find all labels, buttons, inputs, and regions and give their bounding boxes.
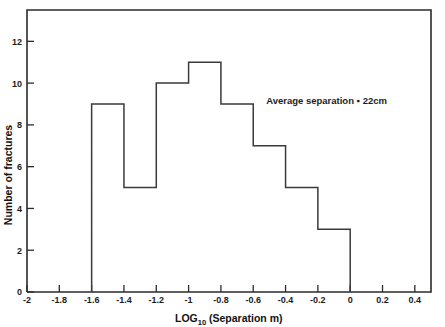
x-axis-title-main: LOG	[175, 312, 198, 324]
x-tick-label: -0.6	[245, 295, 261, 305]
histogram-figure: -2-1.8-1.6-1.4-1.2-1-0.8-0.6-0.4-0.200.2…	[0, 0, 445, 327]
x-tick-label: -0.4	[278, 295, 294, 305]
x-axis-title-rest: (Separation m)	[206, 312, 282, 324]
x-axis-title: LOG10 (Separation m)	[175, 312, 283, 327]
y-tick-label: 8	[17, 120, 22, 130]
average-separation-annotation: Average separation ▪ 22cm	[266, 95, 387, 106]
x-tick-label: -1.2	[149, 295, 165, 305]
y-tick-label: 2	[17, 246, 22, 256]
x-tick-label: 0.4	[409, 295, 422, 305]
x-tick-label: -1.6	[84, 295, 100, 305]
histogram-plot: -2-1.8-1.6-1.4-1.2-1-0.8-0.6-0.4-0.200.2…	[0, 0, 445, 327]
x-tick-label: -2	[23, 295, 31, 305]
plot-frame	[27, 10, 431, 292]
x-axis-title-subscript: 10	[198, 318, 206, 327]
x-tick-label: 0.2	[376, 295, 389, 305]
x-tick-label: -0.8	[213, 295, 229, 305]
y-tick-label: 12	[12, 37, 22, 47]
x-tick-label: 0	[348, 295, 353, 305]
y-tick-label: 4	[17, 204, 22, 214]
x-tick-label: -1.8	[52, 295, 68, 305]
y-tick-label: 10	[12, 79, 22, 89]
x-tick-label: -1.4	[116, 295, 132, 305]
x-tick-label: -0.2	[310, 295, 326, 305]
y-axis-ticks	[27, 41, 34, 292]
x-axis-ticks	[27, 285, 415, 292]
y-tick-label: 6	[17, 162, 22, 172]
y-axis-title: Number of fractures	[2, 125, 14, 226]
y-tick-label: 0	[17, 287, 22, 297]
x-tick-label: -1	[185, 295, 193, 305]
x-axis-tick-labels: -2-1.8-1.6-1.4-1.2-1-0.8-0.6-0.4-0.200.2…	[23, 295, 421, 305]
